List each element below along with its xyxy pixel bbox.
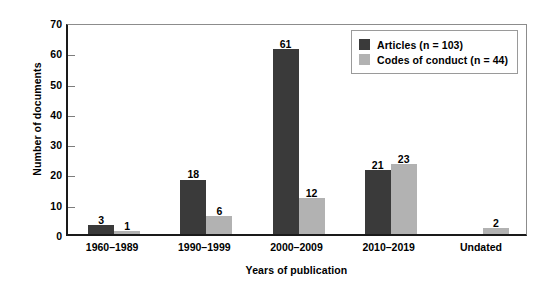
x-axis-tick-labels: 1960–19891990–19992000–20092010–2019Unda…	[66, 241, 527, 255]
y-axis-tick-icon	[68, 176, 75, 177]
bar	[273, 49, 299, 234]
y-axis-tick-icon	[68, 207, 75, 208]
bar-value-label: 2	[474, 217, 518, 229]
legend-item-articles: Articles (n = 103)	[359, 37, 508, 52]
bar-value-label: 61	[264, 38, 308, 50]
bar	[299, 198, 325, 234]
y-tick-label: 20	[38, 169, 62, 181]
y-tick-label: 40	[38, 109, 62, 121]
y-axis-tick-labels: 010203040506070	[38, 18, 62, 236]
y-tick-label: 10	[38, 200, 62, 212]
legend-swatch-codes-of-conduct-icon	[359, 54, 370, 65]
y-axis-tick-icon	[68, 55, 75, 56]
legend-label-codes-of-conduct: Codes of conduct (n = 44)	[377, 54, 508, 66]
bar-value-label: 18	[171, 168, 215, 180]
legend-label-articles: Articles (n = 103)	[377, 39, 463, 51]
x-tick-label: 1990–1999	[158, 241, 250, 254]
y-axis-tick-icon	[68, 146, 75, 147]
y-tick-label: 50	[38, 79, 62, 91]
bar-value-label: 12	[290, 187, 334, 199]
y-tick-label: 70	[38, 18, 62, 30]
y-tick-label: 0	[38, 230, 62, 242]
bar-value-label: 1	[105, 220, 149, 232]
x-tick-label: 2010–2019	[343, 241, 435, 254]
bar	[391, 164, 417, 234]
bar	[206, 216, 232, 234]
y-tick-label: 60	[38, 48, 62, 60]
y-axis-tick-icon	[68, 86, 75, 87]
legend-swatch-articles-icon	[359, 39, 370, 50]
legend-item-codes-of-conduct: Codes of conduct (n = 44)	[359, 52, 508, 67]
y-axis-tick-icon	[68, 116, 75, 117]
x-tick-label: 2000–2009	[250, 241, 342, 254]
bar-chart-figure: Number of documents 010203040506070 3118…	[0, 0, 550, 290]
bar	[365, 170, 391, 234]
x-tick-label: Undated	[435, 241, 527, 254]
y-tick-label: 30	[38, 139, 62, 151]
chart-legend: Articles (n = 103) Codes of conduct (n =…	[351, 30, 518, 74]
x-tick-label: 1960–1989	[66, 241, 158, 254]
bar-value-label: 23	[382, 153, 426, 165]
bar-value-label: 6	[197, 205, 241, 217]
x-axis-title: Years of publication	[66, 264, 527, 276]
